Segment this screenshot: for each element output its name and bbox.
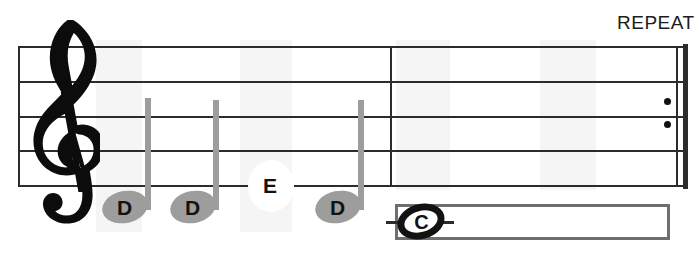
repeat-barline-thin (676, 46, 678, 187)
treble-clef-icon (26, 16, 100, 238)
paper-band (396, 40, 450, 190)
note-2-head[interactable]: D (167, 187, 219, 228)
note-3-head[interactable]: E (263, 175, 277, 196)
music-notation-sheet: REPEAT D D E D C (0, 0, 698, 258)
note-1-head[interactable]: D (99, 187, 151, 228)
whole-note-c-letter: C (414, 212, 428, 232)
repeat-barline-thick (683, 44, 688, 189)
note-1-stem (145, 98, 151, 210)
repeat-label: REPEAT (617, 12, 695, 34)
repeat-dot-upper (664, 98, 671, 105)
staff-line-4 (18, 150, 688, 152)
note-1-letter: D (117, 197, 132, 218)
note-4-head[interactable]: D (312, 187, 364, 228)
barline-measure-divider (390, 46, 392, 187)
staff-line-5 (18, 185, 688, 187)
staff-line-3 (18, 116, 688, 118)
note-2-stem (213, 100, 219, 210)
barline-start (18, 46, 20, 187)
note-2-letter: D (185, 197, 200, 218)
repeat-dot-lower (664, 121, 671, 128)
staff-line-2 (18, 81, 688, 83)
paper-band (540, 40, 596, 190)
note-4-stem (358, 100, 364, 210)
note-4-letter: D (330, 197, 345, 218)
staff-line-1 (18, 46, 688, 48)
note-3-letter: E (263, 174, 277, 197)
